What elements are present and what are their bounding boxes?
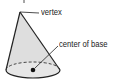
vertex-leader bbox=[20, 12, 39, 13]
vertex-label: vertex bbox=[41, 8, 62, 17]
center-of-base-label: center of base bbox=[59, 40, 107, 49]
center-of-base-point bbox=[31, 68, 36, 73]
